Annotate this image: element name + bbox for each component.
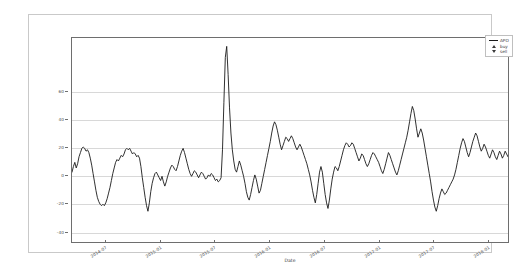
triangle-down-icon bbox=[488, 49, 499, 54]
x-tick-mark bbox=[269, 240, 270, 243]
y-tick-label: 0 bbox=[61, 173, 64, 178]
x-axis-tick-labels: 2014-072015-012015-072016-012016-072017-… bbox=[71, 243, 509, 269]
y-axis-tick-labels: 6040200-20-40 bbox=[51, 37, 68, 243]
y-tick-mark bbox=[65, 119, 68, 120]
x-tick-label: 2015-07 bbox=[199, 245, 217, 259]
y-tick-mark bbox=[65, 91, 68, 92]
y-tick-label: 60 bbox=[58, 88, 64, 93]
y-tick-label: 20 bbox=[58, 145, 64, 150]
y-tick-mark bbox=[65, 203, 68, 204]
legend-item-sell: sell bbox=[488, 49, 509, 54]
x-tick-mark bbox=[160, 240, 161, 243]
x-tick-label: 2017-07 bbox=[418, 245, 436, 259]
legend-label-apo: APO bbox=[499, 38, 509, 43]
chart-legend: APO buy sell bbox=[485, 35, 513, 57]
x-tick-mark bbox=[105, 240, 106, 243]
y-tick-mark bbox=[65, 175, 68, 176]
x-tick-mark bbox=[324, 240, 325, 243]
y-tick-mark bbox=[65, 147, 68, 148]
y-tick-label: -20 bbox=[57, 201, 64, 206]
x-tick-mark bbox=[214, 240, 215, 243]
legend-label-buy: buy bbox=[499, 44, 508, 49]
plot-area bbox=[71, 37, 509, 243]
x-tick-label: 2014-07 bbox=[90, 245, 108, 259]
y-tick-mark bbox=[65, 232, 68, 233]
x-tick-label: 2017-01 bbox=[363, 245, 381, 259]
y-tick-label: -40 bbox=[57, 229, 64, 234]
legend-label-sell: sell bbox=[499, 49, 507, 54]
data-line-apo bbox=[72, 38, 508, 242]
x-tick-label: 2015-01 bbox=[144, 245, 162, 259]
x-tick-mark bbox=[433, 240, 434, 243]
x-tick-mark bbox=[488, 240, 489, 243]
x-tick-label: 2016-07 bbox=[309, 245, 327, 259]
x-tick-mark bbox=[379, 240, 380, 243]
x-tick-label: 2016-01 bbox=[254, 245, 272, 259]
x-tick-label: 2018-01 bbox=[473, 245, 491, 259]
y-tick-label: 40 bbox=[58, 116, 64, 121]
x-axis-label: Date bbox=[71, 258, 509, 263]
figure-panel: 6040200-20-40 2014-072015-012015-072016-… bbox=[28, 14, 492, 253]
